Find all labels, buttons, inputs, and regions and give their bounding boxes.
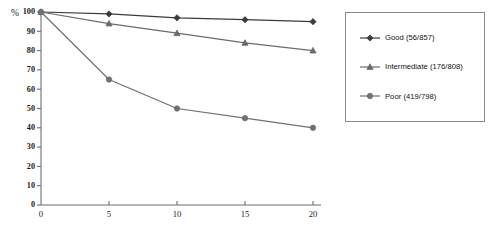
- legend-item: Good (56/857): [346, 30, 484, 46]
- y-tick-label: 10: [27, 181, 35, 190]
- data-point-marker: [310, 125, 315, 130]
- x-tick-label: 15: [241, 209, 250, 219]
- data-point-marker: [106, 77, 111, 82]
- y-axis-title: %: [11, 8, 19, 18]
- data-point-marker: [310, 19, 316, 25]
- plot-area: 010203040506070809010005101520%years: [0, 0, 340, 236]
- data-point-marker: [242, 17, 248, 23]
- x-tick-label: 10: [173, 209, 182, 219]
- data-point-marker: [106, 11, 112, 17]
- y-tick-label: 50: [27, 104, 35, 113]
- legend-item: Intermediate (176/808): [346, 59, 484, 75]
- y-tick-label: 90: [27, 27, 35, 36]
- legend-swatch-triangle-icon: [359, 61, 381, 73]
- data-point-marker: [242, 115, 247, 120]
- y-tick-label: 40: [27, 123, 35, 132]
- y-tick-label: 20: [27, 162, 35, 171]
- y-tick-label: 100: [23, 7, 35, 16]
- y-tick-label: 0: [31, 200, 35, 209]
- legend-item-label: Intermediate (176/808): [385, 62, 463, 71]
- data-point-marker: [174, 15, 180, 21]
- x-tick-label: 0: [39, 209, 43, 219]
- y-tick-label: 60: [27, 85, 35, 94]
- chart-figure: 010203040506070809010005101520%years Goo…: [0, 0, 493, 236]
- legend-item: Poor (419/798): [346, 88, 484, 104]
- y-tick-label: 30: [27, 142, 35, 151]
- y-tick-label: 70: [27, 65, 35, 74]
- chart-legend: Good (56/857)Intermediate (176/808)Poor …: [345, 12, 485, 122]
- x-tick-label: 5: [107, 209, 111, 219]
- x-tick-label: 20: [309, 209, 318, 219]
- data-point-marker: [174, 106, 179, 111]
- legend-item-label: Good (56/857): [385, 33, 435, 42]
- legend-item-label: Poor (419/798): [385, 92, 436, 101]
- data-point-marker: [38, 9, 43, 14]
- legend-swatch-circle-icon: [359, 90, 381, 102]
- data-point-marker: [367, 94, 372, 99]
- legend-swatch-diamond-icon: [359, 32, 381, 44]
- data-point-marker: [367, 35, 373, 41]
- y-tick-label: 80: [27, 46, 35, 55]
- chart-svg: 010203040506070809010005101520%years: [0, 0, 340, 236]
